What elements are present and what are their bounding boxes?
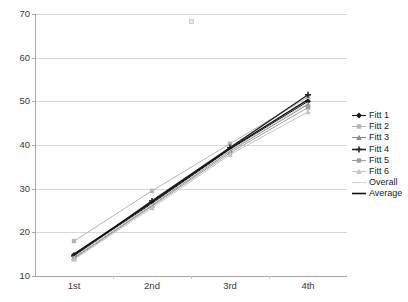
legend-item-fitt-6[interactable]: Fitt 6 <box>352 166 408 177</box>
legend-swatch-icon <box>352 177 366 188</box>
legend-item-fitt-3[interactable]: Fitt 3 <box>352 132 408 143</box>
series-layer <box>0 0 408 302</box>
legend-swatch-icon <box>352 155 366 166</box>
legend-swatch-icon <box>352 188 366 199</box>
legend-item-overall[interactable]: Overall <box>352 177 408 188</box>
series-fitt-6 <box>71 109 311 262</box>
legend-label: Overall <box>369 177 398 188</box>
legend-label: Fitt 4 <box>369 144 389 155</box>
legend-item-fitt-2[interactable]: Fitt 2 <box>352 121 408 132</box>
legend-item-fitt-4[interactable]: Fitt 4 <box>352 144 408 155</box>
legend-label: Fitt 3 <box>369 132 389 143</box>
data-point <box>72 239 76 243</box>
data-point <box>150 189 154 193</box>
line-chart: 70605040302010 1st2nd3rd4th Fitt 1Fitt 2… <box>0 0 408 302</box>
legend-item-average[interactable]: Average <box>352 188 408 199</box>
legend-label: Fitt 2 <box>369 121 389 132</box>
series-line <box>74 112 308 260</box>
legend-item-fitt-1[interactable]: Fitt 1 <box>352 110 408 121</box>
legend: Fitt 1Fitt 2Fitt 3Fitt 4Fitt 5Fitt 6Over… <box>352 110 408 200</box>
legend-item-fitt-5[interactable]: Fitt 5 <box>352 155 408 166</box>
legend-swatch-icon <box>352 110 366 121</box>
legend-swatch-icon <box>352 121 366 132</box>
data-point <box>306 105 310 109</box>
legend-label: Average <box>369 188 402 199</box>
legend-swatch-icon <box>352 144 366 155</box>
legend-label: Fitt 6 <box>369 166 389 177</box>
legend-label: Fitt 5 <box>369 155 389 166</box>
data-point <box>305 109 311 114</box>
legend-swatch-icon <box>352 132 366 143</box>
legend-swatch-icon <box>352 166 366 177</box>
legend-label: Fitt 1 <box>369 110 389 121</box>
